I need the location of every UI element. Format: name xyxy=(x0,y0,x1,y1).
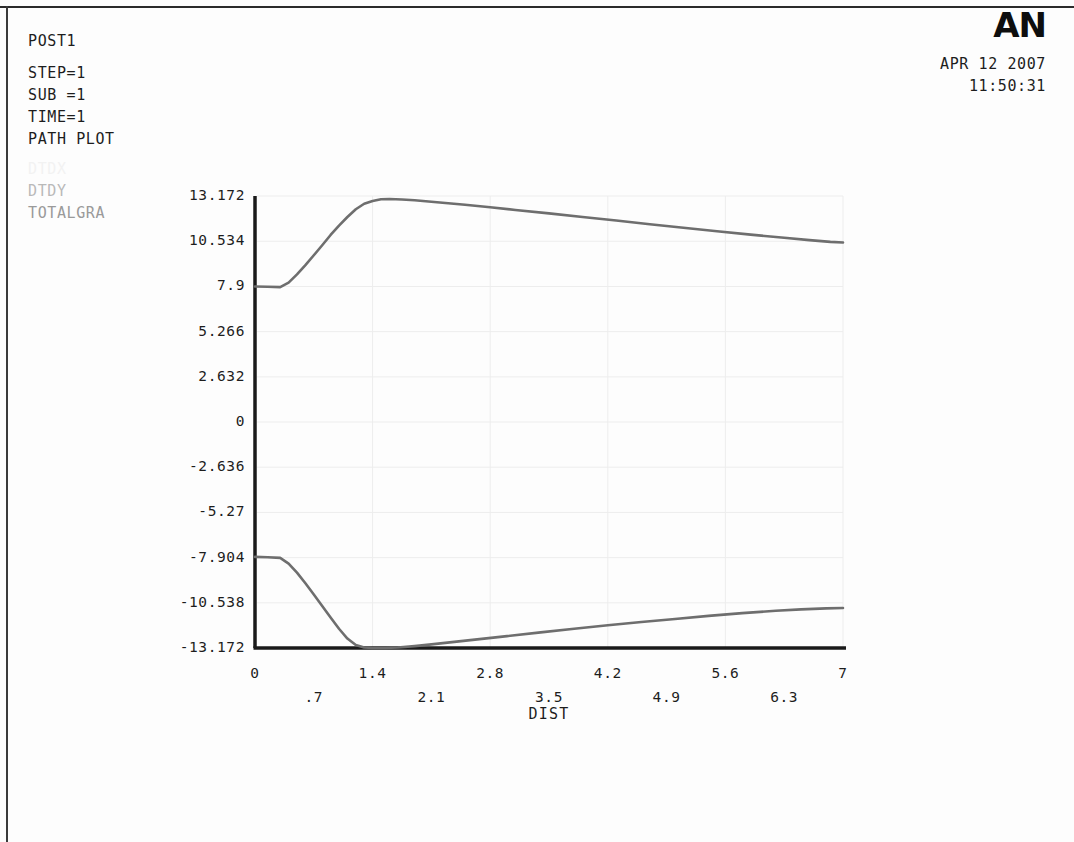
x-tick-label-upper: 2.8 xyxy=(476,665,504,681)
y-tick-label: -2.636 xyxy=(0,458,245,474)
y-tick-label: 0 xyxy=(0,413,245,429)
y-tick-label: -7.904 xyxy=(0,549,245,565)
series-line-totalgra xyxy=(255,199,843,287)
y-tick-label: 5.266 xyxy=(0,323,245,339)
x-tick-label-upper: 4.2 xyxy=(594,665,622,681)
x-tick-label-upper: 1.4 xyxy=(359,665,387,681)
x-axis-title: DIST xyxy=(529,705,570,723)
y-tick-label: 2.632 xyxy=(0,368,245,384)
x-tick-label-lower: .7 xyxy=(304,689,323,705)
x-tick-label-upper: 0 xyxy=(250,665,259,681)
x-tick-label-lower: 2.1 xyxy=(417,689,445,705)
x-tick-label-lower: 3.5 xyxy=(535,689,563,705)
y-tick-label: 10.534 xyxy=(0,232,245,248)
x-tick-label-lower: 4.9 xyxy=(653,689,681,705)
y-tick-label: -10.538 xyxy=(0,594,245,610)
y-tick-label: -5.27 xyxy=(0,503,245,519)
y-tick-label: 7.9 xyxy=(0,277,245,293)
x-tick-label-lower: 6.3 xyxy=(770,689,798,705)
ansys-path-plot-page: POST1 STEP=1 SUB =1 TIME=1 PATH PLOT DTD… xyxy=(0,0,1074,842)
x-tick-label-upper: 7 xyxy=(838,665,847,681)
y-tick-label: 13.172 xyxy=(0,187,245,203)
x-tick-label-upper: 5.6 xyxy=(711,665,739,681)
y-tick-label: -13.172 xyxy=(0,639,245,655)
